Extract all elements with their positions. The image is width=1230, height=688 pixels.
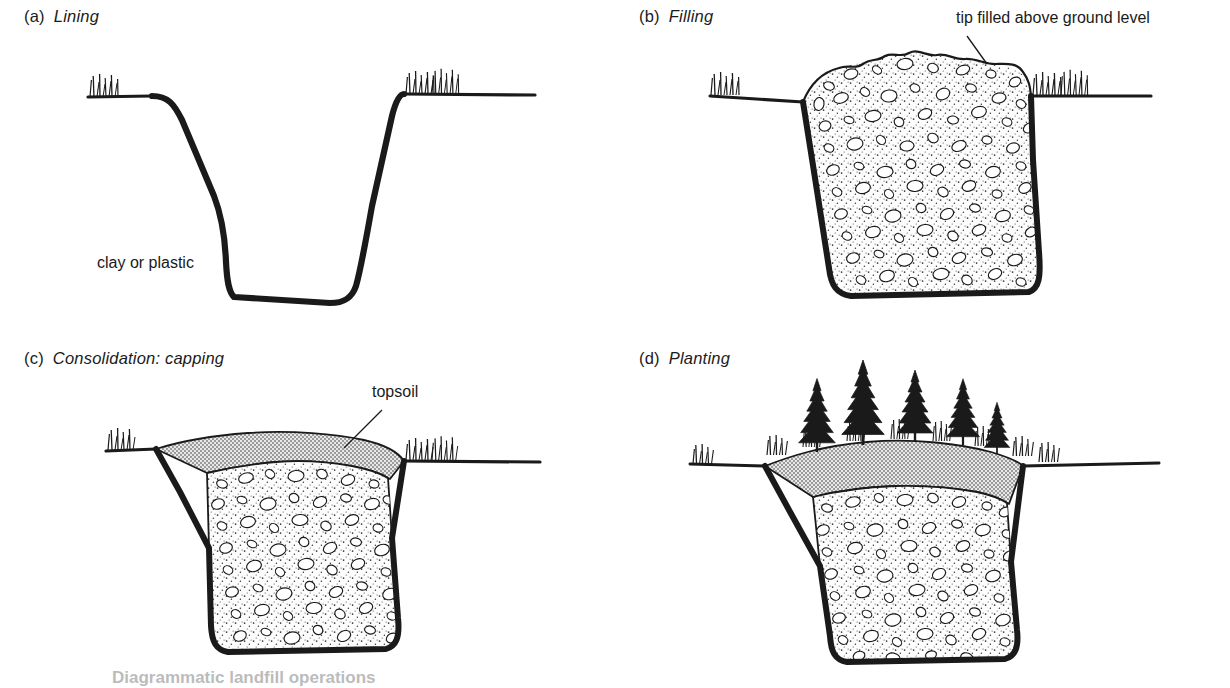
ground-line-right — [404, 461, 540, 462]
grass-tuft — [406, 71, 434, 94]
grass-tuft — [1061, 70, 1088, 95]
panel-a-name: Lining — [54, 7, 99, 25]
grass-tuft — [108, 428, 135, 450]
annotation-topsoil: topsoil — [372, 383, 418, 401]
conifer-tree — [984, 402, 1010, 454]
grass-tuft — [693, 444, 713, 464]
ground-line-left — [106, 449, 156, 451]
ground-line-right — [1023, 463, 1159, 466]
panel-d-name: Planting — [669, 349, 730, 367]
conifer-tree — [842, 360, 884, 445]
ground-line-left — [710, 96, 803, 102]
grass-tuft — [1013, 436, 1033, 456]
grass-tuft — [767, 435, 787, 455]
rubble-fill — [813, 486, 1018, 665]
grass-tuft — [432, 69, 459, 94]
grass-tuft — [1033, 72, 1061, 95]
panel-c-label: (c)Consolidation: capping — [24, 349, 224, 368]
ground-line-right — [404, 94, 535, 95]
panel-c-name: Consolidation: capping — [53, 349, 224, 367]
panel-c-consolidation-capping: (c)Consolidation: capping topsoil — [0, 342, 615, 685]
grass-tuft — [711, 72, 739, 95]
annotation-clay-or-plastic: clay or plastic — [97, 254, 194, 272]
panel-d-label: (d)Planting — [639, 349, 730, 368]
panel-b-label: (b)Filling — [639, 7, 713, 26]
panel-d-planting: (d)Planting — [615, 342, 1230, 685]
panel-b-filling: (b)Filling tip filled above ground level — [615, 0, 1230, 343]
grass-tuft — [933, 421, 951, 441]
grass-tuft — [406, 438, 433, 460]
panel-a-tag: (a) — [24, 7, 45, 25]
rubble-fill — [803, 51, 1040, 296]
panel-b-tag: (b) — [639, 7, 660, 25]
panel-b-name: Filling — [669, 7, 714, 25]
conifer-tree — [946, 379, 979, 445]
grass-tuft — [90, 74, 118, 97]
panel-c-tag: (c) — [24, 349, 44, 367]
rubble-fill — [207, 461, 399, 652]
conifer-tree — [897, 370, 933, 442]
grass-tuft — [432, 436, 458, 460]
figure-caption: Diagrammatic landfill operations — [112, 668, 376, 688]
panel-a-label: (a)Lining — [24, 7, 99, 26]
conifer-tree — [799, 379, 836, 452]
ground-line-left — [690, 464, 765, 466]
panel-d-tag: (d) — [639, 349, 660, 367]
annotation-tip-filled-above-ground-level: tip filled above ground level — [956, 9, 1150, 27]
grass-tuft — [1039, 442, 1059, 462]
panel-a-lining: (a)Lining clay or plastic — [0, 0, 615, 343]
